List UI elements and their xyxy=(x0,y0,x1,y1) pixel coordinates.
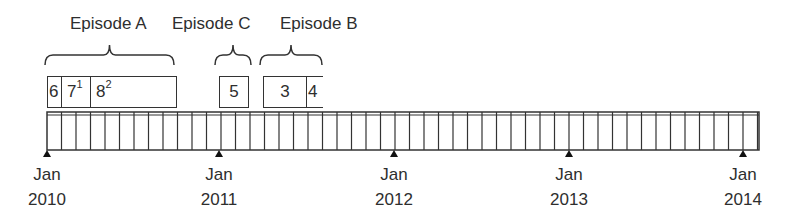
brace-episode-b xyxy=(260,45,322,65)
event-box-6: 6 xyxy=(47,76,62,108)
tick-label-2012: Jan2012 xyxy=(364,162,424,212)
tick-marker-2012 xyxy=(390,150,398,157)
episode-c-label: Episode C xyxy=(172,14,250,34)
tick-marker-2014 xyxy=(739,150,747,157)
episode-b-label: Episode B xyxy=(280,14,358,34)
tick-marker-2010 xyxy=(43,150,51,157)
event-box-8: 82 xyxy=(90,76,177,108)
episode-a-label: Episode A xyxy=(70,14,147,34)
brace-episode-a xyxy=(45,45,174,65)
tick-label-2013: Jan2013 xyxy=(539,162,599,212)
event-box-7: 71 xyxy=(61,76,91,108)
event-box-3: 3 xyxy=(263,76,307,108)
tick-marker-2013 xyxy=(565,150,573,157)
event-box-5: 5 xyxy=(219,76,249,108)
tick-label-2010: Jan2010 xyxy=(17,162,77,212)
timeline-bar xyxy=(47,112,759,150)
tick-label-2014: Jan2014 xyxy=(713,162,773,212)
tick-label-2011: Jan2011 xyxy=(189,162,249,212)
event-box-4: 4 xyxy=(306,76,323,108)
tick-marker-2011 xyxy=(215,150,223,157)
brace-episode-c xyxy=(215,45,251,65)
